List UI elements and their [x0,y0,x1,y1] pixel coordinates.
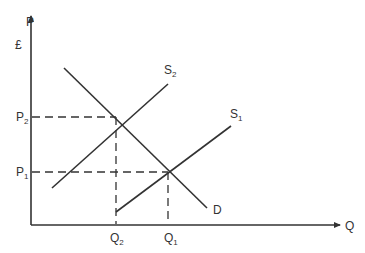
quantity-axis-label: Q [345,220,354,232]
supply-2-label-sub: 2 [172,70,176,79]
supply-demand-diagram [0,0,365,253]
p2-label-sub: 2 [24,117,28,126]
q1-label-sub: 1 [173,238,177,247]
demand-label-text: D [213,203,222,217]
quantity-axis-label-text: Q [345,219,354,233]
demand-curve [64,68,207,208]
supply-2-label: S2 [164,64,176,76]
supply-1-label: S1 [230,108,242,120]
p1-label-text: P [16,165,24,179]
supply-curve-1 [116,126,231,212]
q1-label-text: Q [164,231,173,245]
p2-label: P2 [16,111,28,123]
currency-unit-label: £ [15,39,22,51]
p1-label: P1 [16,166,28,178]
p1-label-sub: 1 [24,172,28,181]
price-axis-label: P [26,16,34,28]
currency-unit-text: £ [15,38,22,52]
demand-label: D [213,204,222,216]
q2-label: Q2 [110,232,124,244]
q2-label-text: Q [110,231,119,245]
price-axis-label-text: P [26,15,34,29]
p2-label-text: P [16,110,24,124]
supply-2-label-text: S [164,63,172,77]
q2-label-sub: 2 [119,238,123,247]
supply-1-label-sub: 1 [238,114,242,123]
supply-1-label-text: S [230,107,238,121]
q1-label: Q1 [164,232,178,244]
